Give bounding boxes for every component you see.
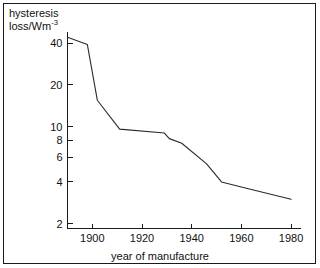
x-tick-label: 1980 — [279, 232, 303, 244]
chart-axes — [68, 32, 301, 229]
x-axis-ticks: 19001920194019601980 — [80, 224, 303, 244]
x-tick-label: 1920 — [130, 232, 154, 244]
y-tick-label: 4 — [56, 176, 62, 188]
y-axis-ticks: 4020108642 — [50, 37, 72, 230]
x-axis-title: year of manufacture — [0, 250, 320, 262]
x-tick-label: 1960 — [229, 232, 253, 244]
y-tick-label: 6 — [56, 151, 62, 163]
y-tick-label: 10 — [50, 121, 62, 133]
chart-plot-area: 4020108642 19001920194019601980 — [0, 0, 320, 268]
data-series-line — [68, 37, 292, 199]
y-tick-label: 40 — [50, 37, 62, 49]
y-tick-label: 8 — [56, 134, 62, 146]
y-tick-label: 2 — [56, 218, 62, 230]
chart-page: hysteresisloss/Wm-3 4020108642 190019201… — [0, 0, 320, 268]
x-tick-label: 1940 — [179, 232, 203, 244]
x-tick-label: 1900 — [80, 232, 104, 244]
y-tick-label: 20 — [50, 79, 62, 91]
chart-series — [68, 37, 292, 199]
